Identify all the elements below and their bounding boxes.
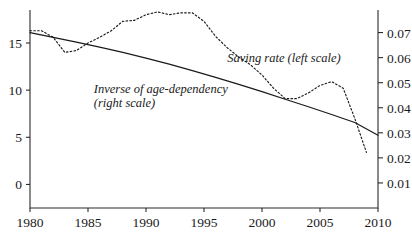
- x-tick-label: 2010: [365, 215, 392, 230]
- saving-rate-annotation: Saving rate (left scale): [227, 51, 341, 65]
- x-tick-label: 2005: [307, 215, 334, 230]
- chart-svg: 19801985199019952000200520100510150.010.…: [0, 0, 412, 233]
- plot-frame: [30, 10, 378, 208]
- right-tick-label: 0.06: [387, 51, 411, 66]
- x-tick-label: 1980: [17, 215, 44, 230]
- age-dependency-annotation: Inverse of age-dependency: [93, 82, 228, 96]
- right-tick-label: 0.05: [387, 76, 411, 91]
- right-tick-label: 0.04: [387, 101, 411, 116]
- x-tick-label: 1990: [133, 215, 160, 230]
- age-dependency-annotation: (right scale): [94, 96, 155, 110]
- left-tick-label: 15: [9, 36, 23, 51]
- right-tick-label: 0.07: [387, 26, 411, 41]
- left-tick-label: 10: [9, 83, 23, 98]
- chart-container: 19801985199019952000200520100510150.010.…: [0, 0, 412, 233]
- left-tick-label: 5: [15, 130, 22, 145]
- x-tick-label: 1985: [75, 215, 102, 230]
- right-tick-label: 0.01: [387, 176, 411, 191]
- x-tick-label: 2000: [249, 215, 276, 230]
- axis-group: [30, 10, 378, 208]
- right-tick-label: 0.02: [387, 151, 411, 166]
- annotations-group: Saving rate (left scale)Inverse of age-d…: [93, 51, 341, 110]
- right-tick-label: 0.03: [387, 126, 411, 141]
- left-tick-label: 0: [15, 177, 22, 192]
- tick-labels-group: 19801985199019952000200520100510150.010.…: [9, 26, 411, 230]
- x-tick-label: 1995: [191, 215, 218, 230]
